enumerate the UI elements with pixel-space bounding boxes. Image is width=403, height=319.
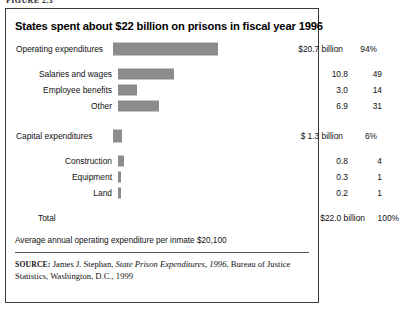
row-label: Salaries and wages bbox=[15, 70, 118, 78]
bar-track bbox=[118, 153, 290, 169]
figure-caption-cutoff: FIGURE 2.3 bbox=[6, 0, 53, 5]
source-keyword: SOURCE: bbox=[15, 260, 51, 269]
bar-track bbox=[118, 98, 290, 114]
row-value: $ 1.3 billion bbox=[285, 131, 345, 141]
row-label: Employee benefits bbox=[15, 86, 118, 94]
bar-track bbox=[118, 82, 290, 98]
source-publication: State Prison Expenditures, 1996 bbox=[116, 259, 227, 269]
bar-track bbox=[118, 185, 290, 201]
row-value: 0.2 bbox=[290, 188, 350, 198]
row-value: $22.0 billion bbox=[307, 213, 367, 223]
bar-operating-expenditures bbox=[113, 43, 218, 56]
row-value: 6.9 bbox=[290, 101, 350, 111]
row-value: 0.8 bbox=[290, 156, 350, 166]
chart-row-construction: Construction 0.8 4 bbox=[15, 153, 310, 169]
bar-track bbox=[135, 210, 307, 226]
row-percent: 100% bbox=[367, 213, 403, 223]
bar-chart: Operating expenditures $20.7 billion 94%… bbox=[6, 41, 318, 226]
bar-land bbox=[118, 188, 121, 199]
source-citation: SOURCE: James J. Stephan, State Prison E… bbox=[15, 259, 308, 282]
row-percent: 1 bbox=[350, 172, 386, 182]
row-spacer bbox=[15, 114, 310, 128]
row-value: 0.3 bbox=[290, 172, 350, 182]
chart-row-other: Other 6.9 31 bbox=[15, 98, 310, 114]
bar-track bbox=[113, 128, 285, 144]
row-percent: 49 bbox=[350, 69, 386, 79]
row-percent: 31 bbox=[350, 101, 386, 111]
bar-track bbox=[118, 66, 290, 82]
chart-row-capital-expenditures: Capital expenditures $ 1.3 billion 6% bbox=[15, 128, 310, 144]
row-label: Other bbox=[15, 102, 118, 110]
row-percent: 6% bbox=[345, 131, 381, 141]
bar-salaries-and-wages bbox=[118, 69, 174, 80]
row-percent: 94% bbox=[345, 44, 381, 54]
bar-employee-benefits bbox=[118, 85, 137, 96]
row-value: $20.7 billion bbox=[285, 44, 345, 54]
chart-row-operating-expenditures: Operating expenditures $20.7 billion 94% bbox=[15, 41, 310, 57]
bar-track bbox=[118, 169, 290, 185]
bar-equipment bbox=[118, 172, 121, 183]
figure-title: States spent about $22 billion on prison… bbox=[15, 20, 318, 32]
bar-other bbox=[118, 101, 159, 112]
row-label: Operating expenditures bbox=[15, 45, 113, 53]
row-label: Construction bbox=[15, 157, 118, 165]
row-spacer bbox=[15, 57, 310, 66]
chart-row-land: Land 0.2 1 bbox=[15, 185, 310, 201]
bar-track bbox=[113, 41, 285, 57]
row-percent: 4 bbox=[350, 156, 386, 166]
chart-row-equipment: Equipment 0.3 1 bbox=[15, 169, 310, 185]
bar-capital-expenditures bbox=[113, 130, 122, 143]
row-percent: 14 bbox=[350, 85, 386, 95]
row-value: 10.8 bbox=[290, 69, 350, 79]
row-label: Land bbox=[15, 189, 118, 197]
row-spacer bbox=[15, 144, 310, 153]
row-spacer bbox=[15, 201, 310, 210]
row-label: Capital expenditures bbox=[15, 132, 113, 140]
average-expenditure-note: Average annual operating expenditure per… bbox=[15, 236, 318, 245]
row-label: Equipment bbox=[15, 173, 118, 181]
row-label: Total bbox=[15, 214, 135, 222]
row-value: 3.0 bbox=[290, 85, 350, 95]
bar-construction bbox=[118, 156, 124, 167]
chart-row-total: Total $22.0 billion 100% bbox=[15, 210, 310, 226]
chart-row-salaries-and-wages: Salaries and wages 10.8 49 bbox=[15, 66, 310, 82]
row-percent: 1 bbox=[350, 188, 386, 198]
chart-row-employee-benefits: Employee benefits 3.0 14 bbox=[15, 82, 310, 98]
figure-frame: States spent about $22 billion on prison… bbox=[5, 8, 319, 303]
source-divider bbox=[15, 252, 309, 253]
source-author: James J. Stephan, bbox=[53, 259, 114, 269]
